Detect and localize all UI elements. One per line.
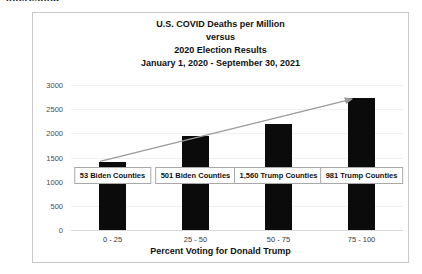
clipped-heading-text: Interesting <box>6 0 59 1</box>
y-axis-tick-label: 1500 <box>46 153 63 162</box>
x-axis-title: Percent Voting for Donald Trump <box>33 246 408 256</box>
y-axis-tick-label: 2000 <box>46 129 63 138</box>
y-axis-tick-label: 500 <box>50 201 63 210</box>
x-axis-tick-label: 25 - 50 <box>184 235 207 244</box>
gridline <box>71 85 403 86</box>
y-axis-tick-label: 2500 <box>46 105 63 114</box>
y-axis-tick-label: 3000 <box>46 81 63 90</box>
x-axis-tick-label: 0 - 25 <box>103 235 122 244</box>
annotation-label: 53 Biden Counties <box>74 167 151 184</box>
chart-panel: U.S. COVID Deaths per Million versus 202… <box>32 12 409 263</box>
annotation-label: 1,560 Trump Counties <box>234 167 324 184</box>
annotation-label: 981 Trump Counties <box>320 167 404 184</box>
x-axis-tick-label: 50 - 75 <box>267 235 290 244</box>
bar <box>348 98 375 230</box>
gridline <box>71 230 403 231</box>
y-axis-tick-label: 0 <box>59 226 63 235</box>
plot-area: 050010001500200025003000 0 - 2525 - 5050… <box>33 13 408 262</box>
x-axis-tick-label: 75 - 100 <box>348 235 376 244</box>
y-axis-tick-label: 1000 <box>46 177 63 186</box>
annotation-label: 501 Biden Counties <box>155 167 237 184</box>
